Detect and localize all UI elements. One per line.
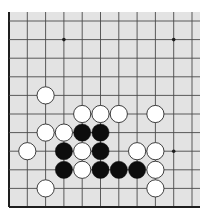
star-point-icon [172,149,176,153]
black-stone[interactable] [55,143,72,160]
white-stone[interactable] [74,105,91,122]
go-board[interactable] [0,0,214,214]
black-stone[interactable] [92,124,109,141]
black-stone[interactable] [92,143,109,160]
white-stone[interactable] [147,143,164,160]
white-stone[interactable] [147,180,164,197]
white-stone[interactable] [19,143,36,160]
white-stone[interactable] [110,105,127,122]
white-stone[interactable] [37,87,54,104]
black-stone[interactable] [92,161,109,178]
star-point-icon [172,38,176,42]
black-stone[interactable] [74,124,91,141]
white-stone[interactable] [37,180,54,197]
white-stone[interactable] [147,105,164,122]
white-stone[interactable] [74,161,91,178]
white-stone[interactable] [147,161,164,178]
star-point-icon [62,38,66,42]
white-stone[interactable] [92,105,109,122]
white-stone[interactable] [74,143,91,160]
white-stone[interactable] [37,124,54,141]
black-stone[interactable] [110,161,127,178]
black-stone[interactable] [55,161,72,178]
black-stone[interactable] [129,161,146,178]
white-stone[interactable] [55,124,72,141]
white-stone[interactable] [129,143,146,160]
